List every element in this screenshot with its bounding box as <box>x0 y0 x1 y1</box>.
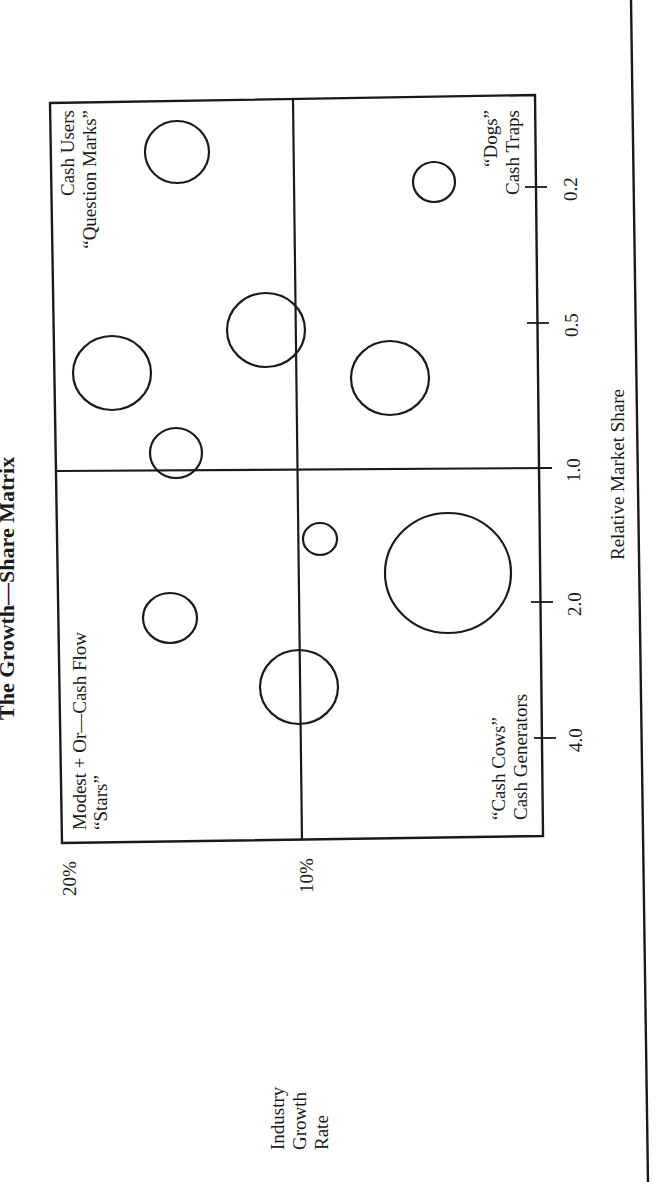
svg-text:Industry: Industry <box>267 1086 288 1150</box>
bubble <box>351 341 429 415</box>
y-axis-label: Industry Growth Rate <box>267 1086 332 1150</box>
quadrant-label-dogs: “Dogs” Cash Traps <box>480 110 523 195</box>
bubble <box>385 513 511 633</box>
xtick-1-0: 1.0 <box>563 458 584 482</box>
bubble <box>413 162 455 202</box>
svg-text:Cash Traps: Cash Traps <box>502 110 523 195</box>
quadrant-label-cash-cows: “Cash Cows” Cash Generators <box>488 694 531 820</box>
x-axis-label: Relative Market Share <box>607 389 628 560</box>
share-divider-line <box>57 468 552 471</box>
growth-share-matrix-chart: The Growth—Share Matrix 0.2 0.5 1.0 2.0 … <box>0 0 669 1182</box>
svg-text:“Stars”: “Stars” <box>90 775 111 830</box>
bubble <box>143 593 197 643</box>
page-border-line <box>631 0 648 1182</box>
ytick-10: 10% <box>296 858 317 893</box>
svg-text:Growth: Growth <box>289 1091 310 1150</box>
bubbles <box>73 121 511 724</box>
quadrant-label-question-marks: Cash Users “Question Marks” <box>57 110 100 249</box>
xtick-2-0: 2.0 <box>564 592 585 616</box>
svg-text:“Question Marks”: “Question Marks” <box>79 110 100 249</box>
svg-text:“Dogs”: “Dogs” <box>480 110 501 167</box>
xtick-4-0: 4.0 <box>565 728 586 752</box>
svg-text:Rate: Rate <box>311 1115 332 1150</box>
chart-title: The Growth—Share Matrix <box>0 457 19 720</box>
svg-text:Cash Users: Cash Users <box>57 110 78 196</box>
svg-text:Cash Generators: Cash Generators <box>510 694 531 820</box>
bubble <box>303 523 337 555</box>
xtick-0-2: 0.2 <box>560 177 581 201</box>
svg-text:“Cash Cows”: “Cash Cows” <box>488 717 509 820</box>
quadrant-label-stars: Modest + Or—Cash Flow “Stars” <box>69 632 111 830</box>
xtick-0-5: 0.5 <box>561 313 582 337</box>
bubble <box>145 121 209 183</box>
svg-text:Modest + Or—Cash Flow: Modest + Or—Cash Flow <box>69 632 90 830</box>
ytick-20: 20% <box>59 861 80 896</box>
bubble <box>73 336 151 410</box>
bubble <box>227 293 305 367</box>
